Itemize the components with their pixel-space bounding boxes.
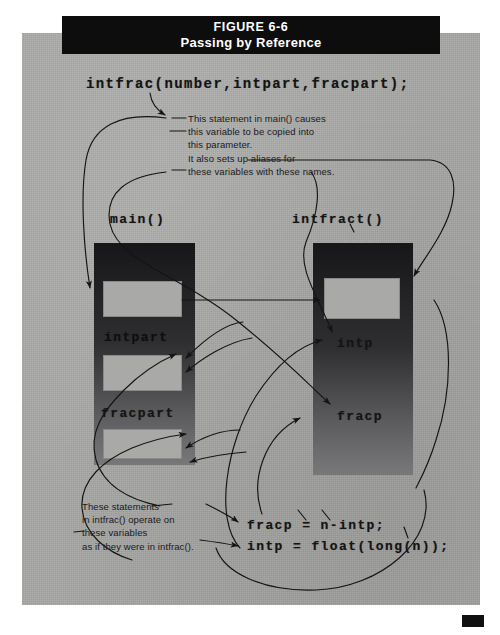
- variable-label-fracpart: fracpart: [101, 406, 175, 421]
- figure-page: FIGURE 6-6 Passing by Reference intfrac(…: [0, 0, 500, 635]
- variable-label-intpart: intpart: [104, 330, 168, 345]
- call-statement: intfrac(number,intpart,fracpart);: [86, 76, 409, 92]
- register-mark: [462, 615, 484, 627]
- code-line-fracp: fracp = n-intp;: [247, 518, 385, 533]
- arrow-note-to-code1: [206, 504, 238, 522]
- variable-label-fracp: fracp: [337, 409, 383, 424]
- annotation-top: This statement in main() causes this var…: [188, 112, 334, 178]
- arrow-to-fracpart-cell: [186, 430, 240, 448]
- variable-label-intp: intp: [337, 336, 374, 351]
- curve-code2-to-intp: [226, 340, 322, 548]
- curve-alias-to-intp: [304, 172, 332, 332]
- leader-call-to-note: [150, 93, 165, 115]
- tick-code2-n: [404, 527, 408, 538]
- arrow-to-fracpart-cell-2: [190, 452, 246, 462]
- frame-label-main: main(): [110, 212, 165, 227]
- curve-code1-to-fracp: [258, 418, 300, 514]
- figure-number: FIGURE 6-6: [62, 16, 440, 35]
- curve-right-return: [416, 300, 449, 488]
- curve-alias-to-fracp: [109, 172, 330, 404]
- frame-label-intfract: intfract(): [292, 212, 384, 227]
- figure-banner: FIGURE 6-6 Passing by Reference: [62, 16, 440, 54]
- code-line-intp: intp = float(long(n));: [247, 539, 449, 554]
- arrow-note-to-code2: [200, 540, 238, 546]
- arrow-to-intpart-cell-2: [186, 338, 252, 372]
- figure-title: Passing by Reference: [62, 35, 440, 51]
- curve-note-to-intpart: [94, 354, 176, 506]
- curve-variable-to-number-cell: [83, 117, 166, 288]
- annotation-bottom: These statements in intfrac() operate on…: [82, 500, 194, 553]
